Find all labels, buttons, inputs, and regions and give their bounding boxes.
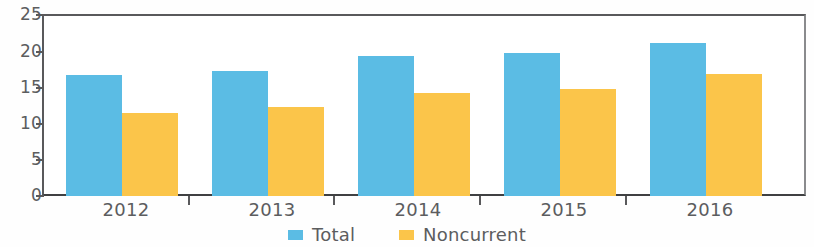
x-axis-tick-3 bbox=[625, 196, 627, 205]
x-axis-tick-2 bbox=[479, 196, 481, 205]
bar-noncurrent-2014[interactable] bbox=[414, 93, 470, 196]
bar-noncurrent-2013[interactable] bbox=[268, 107, 324, 196]
y-axis-tick-5 bbox=[36, 159, 44, 161]
y-axis-tick-10 bbox=[36, 123, 44, 125]
bar-total-2016[interactable] bbox=[650, 43, 706, 196]
legend-label-noncurrent: Noncurrent bbox=[423, 225, 526, 245]
y-axis-tick-0 bbox=[36, 195, 44, 197]
bar-total-2013[interactable] bbox=[212, 71, 268, 196]
bar-noncurrent-2016[interactable] bbox=[706, 74, 762, 196]
bar-chart: 25 20 15 10 5 0 2012 bbox=[0, 0, 814, 247]
legend-label-total: Total bbox=[312, 225, 355, 245]
legend-item-total[interactable]: Total bbox=[288, 225, 355, 245]
bar-total-2015[interactable] bbox=[504, 53, 560, 196]
legend-item-noncurrent[interactable]: Noncurrent bbox=[399, 225, 526, 245]
y-axis-tick-20 bbox=[36, 51, 44, 53]
legend-swatch-total-icon bbox=[288, 230, 303, 240]
bar-total-2012[interactable] bbox=[66, 75, 122, 196]
x-axis-tick-0 bbox=[188, 196, 190, 205]
x-axis-label-2012: 2012 bbox=[66, 200, 186, 220]
x-axis-label-2014: 2014 bbox=[358, 200, 478, 220]
y-axis-tick-15 bbox=[36, 87, 44, 89]
y-axis-tick-25 bbox=[36, 14, 44, 16]
x-axis-tick-1 bbox=[333, 196, 335, 205]
bars-layer bbox=[44, 16, 804, 196]
x-axis-label-2016: 2016 bbox=[650, 200, 770, 220]
bar-noncurrent-2015[interactable] bbox=[560, 89, 616, 196]
bar-total-2014[interactable] bbox=[358, 56, 414, 196]
legend-swatch-noncurrent-icon bbox=[399, 230, 414, 240]
chart-legend: Total Noncurrent bbox=[0, 222, 814, 247]
bar-noncurrent-2012[interactable] bbox=[122, 113, 178, 196]
x-axis-label-2013: 2013 bbox=[212, 200, 332, 220]
x-axis-label-2015: 2015 bbox=[504, 200, 624, 220]
